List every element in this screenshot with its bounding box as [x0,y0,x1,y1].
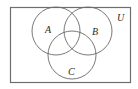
universe-label: U [117,12,125,23]
set-b-label: B [92,26,98,37]
venn-diagram: A B C U [0,0,138,89]
set-c-label: C [68,66,75,77]
set-a-label: A [44,24,52,35]
